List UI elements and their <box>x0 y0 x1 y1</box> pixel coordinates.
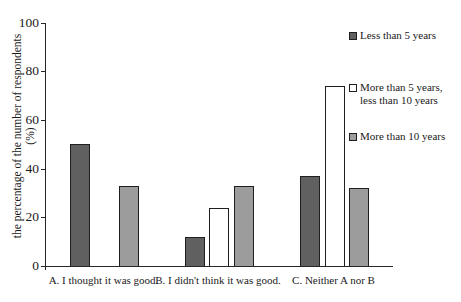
y-tick-80 <box>41 71 46 72</box>
x-origin-tick <box>45 266 46 270</box>
bar-series1-cat3 <box>300 176 320 266</box>
legend-marker-icon <box>349 32 357 40</box>
legend-label: More than 5 years, less than 10 years <box>360 81 456 107</box>
y-tick-label-0: 0 <box>5 259 39 273</box>
y-tick-60 <box>41 120 46 121</box>
bar-series1-cat1 <box>70 144 90 266</box>
plot-area: 020406080100 <box>45 23 393 267</box>
bar-chart-figure: the percentage of the number of responde… <box>0 0 461 302</box>
y-tick-100 <box>41 23 46 24</box>
bar-series3-cat2 <box>234 186 254 266</box>
y-tick-20 <box>41 217 46 218</box>
legend-entry-1: Less than 5 years <box>349 29 436 42</box>
bar-series1-cat2 <box>185 237 205 266</box>
y-tick-label-20: 20 <box>5 210 39 224</box>
y-tick-40 <box>41 169 46 170</box>
legend-label: Less than 5 years <box>360 29 436 42</box>
y-tick-label-40: 40 <box>5 162 39 176</box>
legend-entry-2: More than 5 years, less than 10 years <box>349 81 456 107</box>
legend-entry-3: More than 10 years <box>349 130 445 143</box>
y-tick-label-60: 60 <box>5 113 39 127</box>
y-tick-label-80: 80 <box>5 64 39 78</box>
bar-series3-cat1 <box>119 186 139 266</box>
bar-series2-cat3 <box>325 86 345 266</box>
bar-series2-cat2 <box>209 208 229 266</box>
y-tick-label-100: 100 <box>5 16 39 30</box>
legend-marker-icon <box>349 133 357 141</box>
legend-marker-icon <box>349 84 357 92</box>
legend-label: More than 10 years <box>360 130 445 143</box>
bar-series3-cat3 <box>349 188 369 266</box>
x-category-label-3: C. Neither A nor B <box>249 274 419 287</box>
